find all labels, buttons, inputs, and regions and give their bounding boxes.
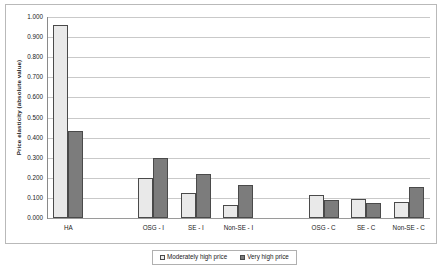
y-axis-tick-label: 1.000 [3,14,43,20]
y-axis-tick-label: 0.600 [3,94,43,100]
bar [181,193,196,218]
bar [53,25,68,218]
bar [324,200,339,218]
bar [223,205,238,218]
legend-entry: Moderately high price [160,254,227,260]
y-axis-tick-label: 0.000 [3,215,43,221]
y-axis-tick-label: 0.300 [3,155,43,161]
dark-gray-swatch-icon [240,255,245,260]
bar-chart: Price elasticity (absolute value) 1.0000… [0,0,443,273]
bar-group [260,17,303,218]
y-axis-tick-label: 0.100 [3,195,43,201]
bar [351,199,366,218]
bar [409,187,424,218]
y-axis-tick-label: 0.900 [3,34,43,40]
bar [68,131,83,218]
bar [366,203,381,218]
bar [196,174,211,218]
bar-group [387,17,430,218]
light-gray-swatch-icon [160,255,165,260]
bar-group [47,17,90,218]
bar-group [217,17,260,218]
y-axis-tick-label: 0.200 [3,175,43,181]
x-axis-tick-label: Non-SE - I [199,225,279,231]
bar [138,178,153,218]
chart-legend: Moderately high priceVery high price [152,250,297,265]
legend-label: Moderately high price [167,254,227,260]
y-axis-tick-label: 0.700 [3,74,43,80]
y-axis-tick-label: 0.400 [3,135,43,141]
x-axis-tick-labels: HAOSG - ISE - INon-SE - IOSG - CSE - CNo… [47,225,430,239]
x-axis-tick-label: HA [28,225,108,231]
y-axis-line [47,17,48,219]
legend-entry: Very high price [240,254,289,260]
x-axis-tick-label: Non-SE - C [369,225,443,231]
y-axis-tick-labels: 1.0000.9000.8000.7000.6000.5000.4000.300… [0,0,43,240]
bar [238,185,253,218]
bar-group [175,17,218,218]
y-axis-tick-label: 0.800 [3,54,43,60]
y-axis-tick-label: 0.500 [3,115,43,121]
bar-group [302,17,345,218]
bar-group [132,17,175,218]
bar [309,195,324,218]
bar-group [90,17,133,218]
plot-area [47,17,430,218]
bar [153,158,168,218]
bar-group [345,17,388,218]
bar [394,202,409,218]
x-axis-baseline [47,218,430,219]
legend-label: Very high price [247,254,289,260]
